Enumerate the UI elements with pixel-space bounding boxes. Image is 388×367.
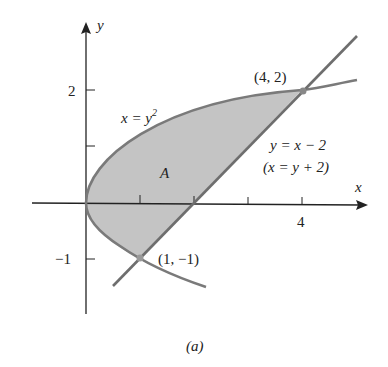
point-lower xyxy=(137,255,144,262)
point-upper-label: (4, 2) xyxy=(254,69,287,86)
point-lower-label: (1, −1) xyxy=(158,251,199,268)
line-label-alt: (x = y + 2) xyxy=(263,159,329,176)
point-upper xyxy=(300,88,307,95)
region-diagram: y x 2 −1 4 x = y2 A (4, 2) (1, −1) y = x… xyxy=(0,0,388,367)
y-axis-label: y xyxy=(95,17,104,33)
region-label: A xyxy=(159,165,170,181)
x-tick-label-4: 4 xyxy=(297,214,305,230)
x-axis xyxy=(32,203,362,205)
y-ticks xyxy=(86,90,95,259)
y-tick-label-neg1: −1 xyxy=(55,251,71,267)
parabola-label-lhs: x = y xyxy=(120,110,152,126)
y-tick-label-2: 2 xyxy=(68,83,76,99)
x-axis-label: x xyxy=(354,179,362,195)
line-label: y = x − 2 xyxy=(268,137,327,153)
shaded-region-a-lower xyxy=(86,203,194,258)
parabola-label: x = y2 xyxy=(120,107,157,126)
parabola-label-exponent: 2 xyxy=(152,107,157,118)
figure-caption: (a) xyxy=(186,338,204,355)
